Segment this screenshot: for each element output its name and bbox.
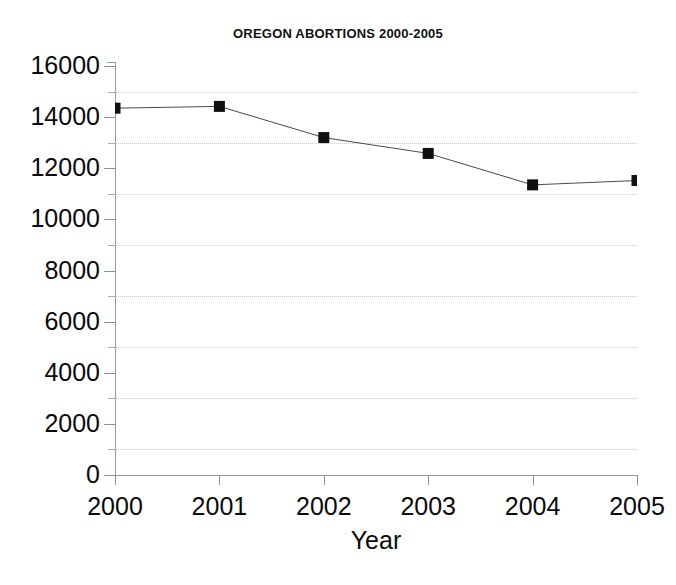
series-line	[115, 106, 637, 184]
y-axis-tick-label: 12000	[0, 155, 100, 180]
data-point-marker	[632, 175, 638, 186]
y-axis-tick-label: 6000	[0, 309, 100, 334]
x-axis-tick-label: 2002	[269, 493, 379, 520]
x-axis-tick	[428, 475, 429, 485]
line-chart: OREGON ABORTIONS 2000-2005 0200040006000…	[0, 0, 676, 585]
data-point-marker	[318, 132, 329, 143]
x-axis-tick-label: 2001	[164, 493, 274, 520]
x-axis-tick-label: 2004	[478, 493, 588, 520]
x-axis-tick	[219, 475, 220, 485]
x-axis-tick	[637, 475, 638, 485]
data-point-marker	[115, 103, 121, 114]
x-axis-title: Year	[115, 527, 637, 554]
data-point-marker	[527, 179, 538, 190]
y-axis-tick-label: 2000	[0, 411, 100, 436]
data-point-marker	[423, 148, 434, 159]
y-axis-tick-label: 4000	[0, 360, 100, 385]
y-axis-tick-label: 14000	[0, 104, 100, 129]
plot-area	[115, 66, 637, 475]
data-series-layer	[115, 66, 637, 475]
x-axis-tick	[324, 475, 325, 485]
y-axis-tick-label: 10000	[0, 206, 100, 231]
data-point-marker	[214, 101, 225, 112]
x-axis-tick	[533, 475, 534, 485]
x-axis-tick	[115, 475, 116, 485]
x-axis-tick-label: 2000	[60, 493, 170, 520]
x-axis-tick-label: 2003	[373, 493, 483, 520]
x-axis-line	[112, 475, 638, 476]
y-axis-top-cap	[107, 62, 116, 63]
y-axis-tick-label: 16000	[0, 53, 100, 78]
y-axis-tick-label: 8000	[0, 258, 100, 283]
chart-title: OREGON ABORTIONS 2000-2005	[0, 26, 676, 41]
y-axis-tick-label: 0	[0, 462, 100, 487]
x-axis-tick-label: 2005	[582, 493, 676, 520]
